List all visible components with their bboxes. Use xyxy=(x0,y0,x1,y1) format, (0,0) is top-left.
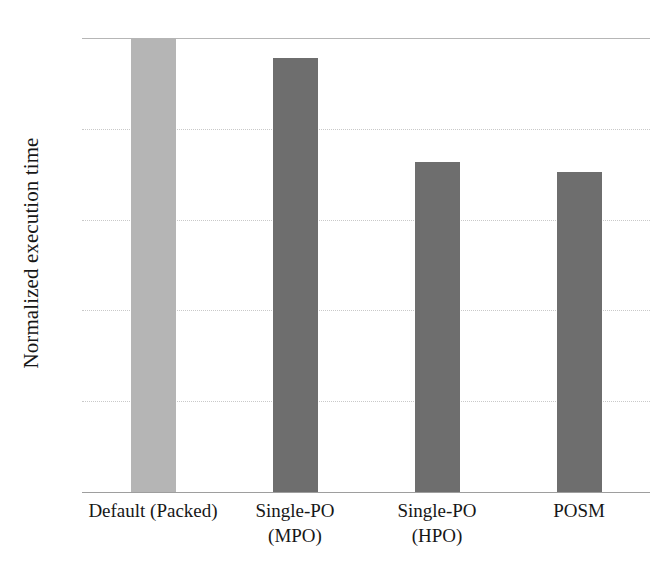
bar-chart: Normalized execution time 012345 Default… xyxy=(0,0,661,580)
x-label-2: Single-PO(HPO) xyxy=(366,498,508,548)
x-label-1: Single-PO(MPO) xyxy=(224,498,366,548)
x-label-line2: (MPO) xyxy=(224,523,366,548)
gridline-0 xyxy=(82,492,650,493)
x-label-line1: Default (Packed) xyxy=(88,500,217,521)
x-label-line1: Single-PO xyxy=(397,500,476,521)
bar-1 xyxy=(273,58,318,492)
x-label-line1: Single-PO xyxy=(255,500,334,521)
x-label-3: POSM xyxy=(508,498,650,523)
x-label-line2: (HPO) xyxy=(366,523,508,548)
bar-0 xyxy=(131,38,176,492)
x-label-0: Default (Packed) xyxy=(82,498,224,523)
plot-area: 012345 xyxy=(82,38,650,492)
bar-3 xyxy=(557,172,602,492)
x-axis-category-labels: Default (Packed)Single-PO(MPO)Single-PO(… xyxy=(82,498,650,568)
y-axis-title: Normalized execution time xyxy=(13,18,49,488)
x-label-line1: POSM xyxy=(553,500,605,521)
bar-2 xyxy=(415,162,460,492)
bars-layer xyxy=(82,38,650,492)
